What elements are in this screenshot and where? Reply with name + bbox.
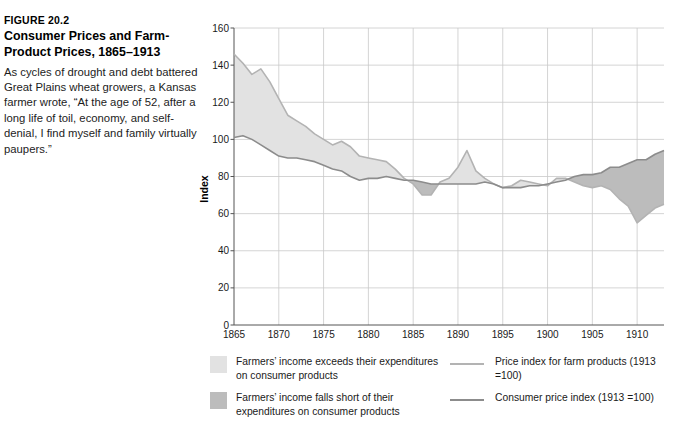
figure-description: As cycles of drought and debt battered G…	[4, 65, 200, 157]
y-tick-label: 120	[212, 97, 229, 108]
x-tick-label: 1910	[626, 329, 649, 340]
legend-item: Price index for farm products (1913 =100…	[450, 355, 675, 382]
x-tick-label: 1900	[536, 329, 559, 340]
legend-column-lines: Price index for farm products (1913 =100…	[450, 355, 675, 414]
x-tick-label: 1870	[268, 329, 291, 340]
consumer-price-line-key	[450, 399, 484, 401]
figure-number: Figure 20.2	[4, 14, 200, 26]
legend-item-label: Farmers’ income exceeds their expenditur…	[236, 355, 440, 382]
price-index-chart: 0204060801001201401601865187018751880188…	[196, 14, 672, 344]
x-tick-label: 1865	[223, 329, 246, 340]
legend-column-swatches: Farmers’ income exceeds their expenditur…	[210, 355, 440, 427]
y-tick-label: 40	[218, 245, 230, 256]
x-tick-label: 1895	[492, 329, 515, 340]
y-tick-label: 140	[212, 60, 229, 71]
figure-caption: Figure 20.2 Consumer Prices and Farm-Pro…	[4, 14, 200, 157]
legend-item-label: Farmers’ income falls short of their exp…	[236, 391, 440, 418]
legend-item: Farmers’ income falls short of their exp…	[210, 391, 440, 418]
deficit-swatch	[210, 392, 227, 409]
farm-price-line-key	[450, 363, 484, 365]
chart-legend: Farmers’ income exceeds their expenditur…	[210, 355, 675, 417]
legend-item: Farmers’ income exceeds their expenditur…	[210, 355, 440, 382]
legend-item: Consumer price index (1913 =100)	[450, 391, 675, 405]
y-tick-label: 60	[218, 208, 230, 219]
chart-container: 0204060801001201401601865187018751880188…	[196, 14, 672, 344]
surplus-swatch	[210, 356, 227, 373]
page-title: Consumer Prices and Farm-Product Prices,…	[4, 29, 200, 61]
legend-item-label: Price index for farm products (1913 =100…	[495, 355, 675, 382]
x-tick-label: 1885	[402, 329, 425, 340]
x-tick-label: 1875	[312, 329, 335, 340]
y-tick-label: 160	[212, 23, 229, 34]
legend-item-label: Consumer price index (1913 =100)	[495, 391, 654, 405]
x-tick-label: 1905	[581, 329, 604, 340]
y-axis-label: Index	[198, 175, 210, 203]
y-tick-label: 20	[218, 282, 230, 293]
chart-difference-bands	[234, 54, 664, 223]
y-tick-label: 80	[218, 171, 230, 182]
x-tick-label: 1890	[447, 329, 470, 340]
x-tick-label: 1880	[357, 329, 380, 340]
y-tick-label: 100	[212, 134, 229, 145]
